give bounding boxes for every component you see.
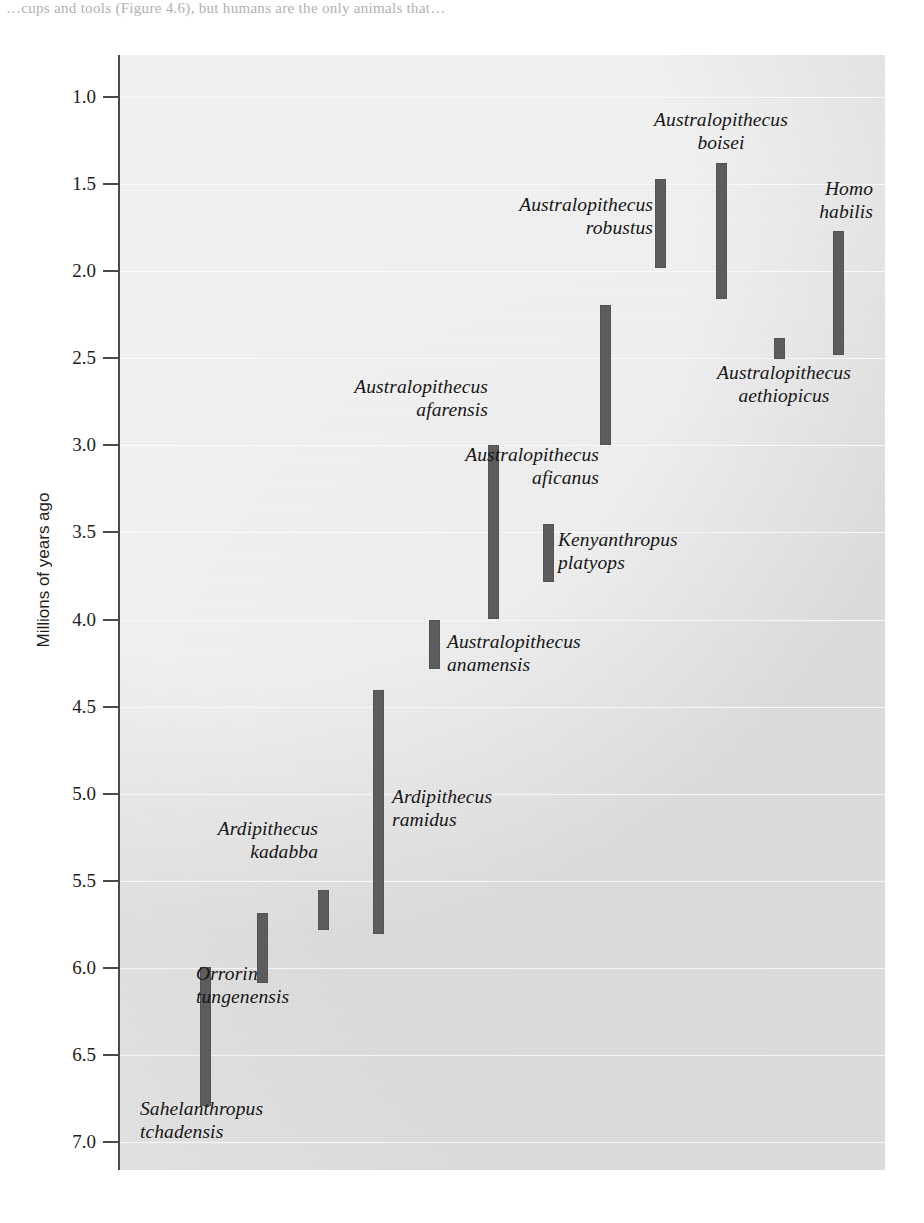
species-label-kenyanthropus-platyops: Kenyanthropus platyops — [558, 528, 754, 574]
species-label-homo-habilis: Homo habilis — [733, 177, 873, 223]
species-label-ardipithecus-kadabba: Ardipithecus kadabba — [150, 817, 318, 863]
y-axis-tick — [103, 357, 120, 359]
species-label-sahelanthropus-tchadensis: Sahelanthropus tchadensis — [140, 1097, 350, 1143]
y-axis-line — [118, 55, 120, 1170]
human-evolution-timeline-figure: …cups and tools (Figure 4.6), but humans… — [0, 0, 924, 1223]
y-axis-tick — [103, 967, 120, 969]
species-range-bar-australopithecus-robustus[interactable] — [655, 179, 666, 268]
species-range-bar-ardipithecus-ramidus[interactable] — [373, 690, 384, 934]
y-axis-tick-label: 6.0 — [38, 957, 96, 979]
species-range-bar-australopithecus-aethiopicus[interactable] — [774, 338, 785, 359]
gridline — [120, 532, 885, 533]
y-axis-tick — [103, 880, 120, 882]
species-range-bar-kenyanthropus-platyops[interactable] — [543, 524, 554, 582]
y-axis-title: Millions of years ago — [34, 440, 54, 700]
y-axis-tick — [103, 270, 120, 272]
y-axis-tick-label: 5.5 — [38, 870, 96, 892]
y-axis-tick-label: 2.0 — [38, 260, 96, 282]
species-range-bar-homo-habilis[interactable] — [833, 231, 844, 355]
species-label-australopithecus-anamensis: Australopithecus anamensis — [447, 630, 663, 676]
y-axis-tick — [103, 444, 120, 446]
gridline — [120, 358, 885, 359]
species-range-bar-ardipithecus-kadabba[interactable] — [318, 890, 329, 930]
gridline — [120, 97, 885, 98]
species-label-australopithecus-boisei: Australopithecus boisei — [613, 108, 829, 154]
y-axis-tick-label: 1.0 — [38, 86, 96, 108]
species-range-bar-australopithecus-africanus[interactable] — [600, 305, 611, 445]
y-axis-tick-label: 1.5 — [38, 173, 96, 195]
y-axis-tick — [103, 793, 120, 795]
y-axis-tick — [103, 619, 120, 621]
species-label-ardipithecus-ramidus: Ardipithecus ramidus — [392, 785, 567, 831]
y-axis-tick-label: 2.5 — [38, 347, 96, 369]
species-label-australopithecus-africanus: Australopithecus aficanus — [383, 443, 599, 489]
species-range-bar-australopithecus-anamensis[interactable] — [429, 620, 440, 669]
y-axis-tick-label: 5.0 — [38, 783, 96, 805]
chart-plot-area: Sahelanthropus tchadensisOrrorin tungene… — [120, 55, 885, 1170]
species-label-australopithecus-robustus: Australopithecus robustus — [437, 193, 653, 239]
page-body-text-sliver: …cups and tools (Figure 4.6), but humans… — [0, 0, 924, 30]
y-axis-tick-label: 7.0 — [38, 1131, 96, 1153]
y-axis-tick — [103, 1054, 120, 1056]
y-axis-tick — [103, 1141, 120, 1143]
y-axis-tick — [103, 531, 120, 533]
gridline — [120, 881, 885, 882]
species-label-orrorin-tungenensis: Orrorin tungenensis — [196, 962, 371, 1008]
gridline — [120, 707, 885, 708]
species-label-australopithecus-aethiopicus: Australopithecus aethiopicus — [676, 361, 892, 407]
gridline — [120, 1055, 885, 1056]
gridline — [120, 620, 885, 621]
species-label-australopithecus-afarensis: Australopithecus afarensis — [272, 375, 488, 421]
y-axis-tick — [103, 96, 120, 98]
y-axis-tick — [103, 706, 120, 708]
gridline — [120, 271, 885, 272]
y-axis-tick-label: 6.5 — [38, 1044, 96, 1066]
species-range-bar-australopithecus-boisei[interactable] — [716, 163, 727, 299]
y-axis-tick — [103, 183, 120, 185]
